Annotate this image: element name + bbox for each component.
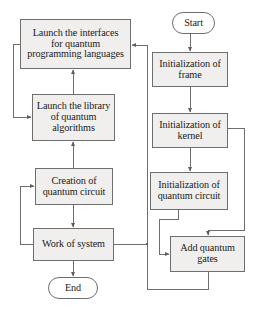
node-line: Creation of bbox=[42, 176, 107, 187]
node-line: Work of system bbox=[41, 239, 106, 250]
node-line: Initialization of bbox=[158, 59, 221, 70]
node-line: quantum circuit bbox=[42, 187, 107, 198]
node-work-of-system[interactable]: Work of system bbox=[33, 228, 114, 261]
node-line: gates bbox=[179, 254, 236, 265]
node-init-frame[interactable]: Initialization of frame bbox=[152, 52, 228, 87]
node-creation-circuit[interactable]: Creation of quantum circuit bbox=[35, 168, 113, 205]
node-init-kernel[interactable]: Initialization of kernel bbox=[152, 113, 228, 148]
node-line: frame bbox=[158, 70, 221, 81]
node-line: programming languages bbox=[26, 49, 125, 60]
edge-work-to-creation bbox=[20, 186, 34, 244]
node-launch-interfaces[interactable]: Launch the interfaces for quantum progra… bbox=[20, 19, 131, 69]
node-line: End bbox=[64, 283, 82, 294]
node-line: Initialization of bbox=[158, 120, 221, 131]
node-start[interactable]: Start bbox=[172, 12, 215, 34]
node-line: algorithms bbox=[36, 123, 111, 134]
node-add-quantum-gates[interactable]: Add quantum gates bbox=[170, 236, 245, 272]
flowchart-canvas: Launch the interfaces for quantum progra… bbox=[0, 0, 261, 309]
node-line: Start bbox=[183, 18, 204, 29]
node-line: quantum circuit bbox=[157, 191, 222, 202]
junction-dot-bus bbox=[146, 243, 148, 245]
node-line: kernel bbox=[158, 131, 221, 142]
node-launch-library[interactable]: Launch the library of quantum algorithms bbox=[32, 94, 115, 141]
node-end[interactable]: End bbox=[48, 277, 98, 299]
node-init-quantum-circuit[interactable]: Initialization of quantum circuit bbox=[150, 172, 228, 210]
